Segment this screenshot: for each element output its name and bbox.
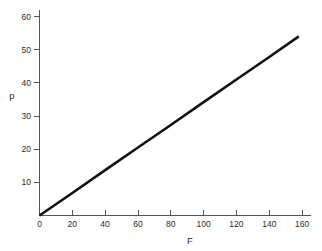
x-tick-label: 140 — [262, 219, 276, 229]
x-tick-label: 20 — [68, 219, 78, 229]
line-chart: 60 50 40 30 20 10 0 20 40 60 80 100 120 … — [0, 0, 322, 251]
y-tick-label: 50 — [22, 45, 32, 55]
x-tick-label: 120 — [229, 219, 243, 229]
y-tick-label: 60 — [22, 12, 32, 22]
chart-container: 60 50 40 30 20 10 0 20 40 60 80 100 120 … — [0, 0, 322, 251]
y-tick-label: 30 — [22, 111, 32, 121]
chart-background — [0, 0, 322, 251]
y-tick-label: 20 — [22, 144, 32, 154]
y-tick-label: 40 — [22, 78, 32, 88]
x-tick-label: 40 — [100, 219, 110, 229]
x-tick-label: 160 — [295, 219, 309, 229]
x-tick-label: 60 — [133, 219, 143, 229]
x-tick-label: 80 — [166, 219, 176, 229]
x-tick-label: 100 — [197, 219, 211, 229]
y-tick-label: 10 — [22, 177, 32, 187]
x-axis-title: F — [187, 235, 193, 246]
x-tick-label: 0 — [37, 219, 42, 229]
y-axis-title: p — [9, 90, 14, 101]
